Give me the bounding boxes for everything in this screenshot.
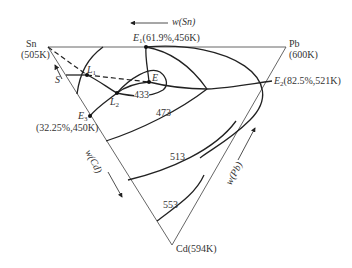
point-l2-label: L2: [110, 97, 119, 110]
point-e1-label: E1(61.9%,456K): [133, 33, 200, 46]
vertex-pb-label: Pb: [289, 39, 300, 49]
vertex-cd-label: Cd(594K): [176, 244, 217, 254]
isotherm-473: 473: [156, 108, 171, 118]
tie-lines-dashed: [48, 47, 149, 82]
isotherm-513: 513: [170, 152, 185, 162]
vertex-pb-temp: (600K): [289, 50, 318, 60]
point-e-label: E: [152, 73, 158, 83]
isotherm-433: 433: [134, 90, 149, 100]
isotherm-553: 553: [163, 200, 178, 210]
vertex-sn-label: Sn: [26, 39, 37, 49]
vertex-sn-temp: (505K): [21, 50, 50, 60]
triangle-edges: [48, 47, 286, 245]
point-e2-label: E2(82.5%,521K): [274, 76, 341, 89]
point-l1-label: L1: [87, 65, 96, 78]
phase-boundaries: [66, 46, 272, 221]
point-s-label: S: [55, 75, 60, 85]
point-e3-value: (32.25%,450K): [36, 123, 98, 133]
axis-sn-label: w(Sn): [172, 17, 195, 27]
